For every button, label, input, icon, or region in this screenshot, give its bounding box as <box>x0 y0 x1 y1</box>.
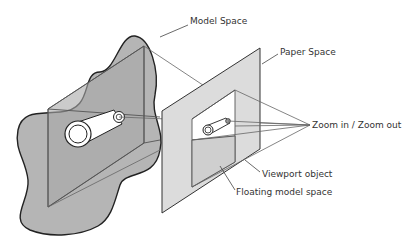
label-model-space: Model Space <box>190 16 248 26</box>
label-floating-model-space: Floating model space <box>236 187 333 197</box>
viewport-diagram: Model Space Paper Space Zoom in / Zoom o… <box>0 0 402 239</box>
label-paper-space: Paper Space <box>280 47 336 57</box>
label-zoom: Zoom in / Zoom out <box>312 120 402 130</box>
label-viewport-object: Viewport object <box>262 169 333 179</box>
